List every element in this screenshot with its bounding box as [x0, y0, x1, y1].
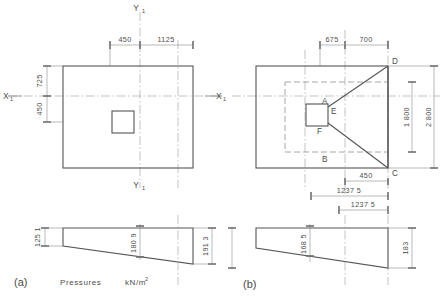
- pressure-trapezoid-b: [256, 228, 388, 268]
- axis-label-x1-left: X: [3, 91, 9, 101]
- pressure-mid-value-a: 180 9: [129, 233, 138, 253]
- pressure-left-value-a: 125 1: [33, 227, 42, 247]
- pressure-mid-value-b: 168 5: [299, 234, 308, 254]
- axis-label-y1-bottom: Y: [133, 180, 139, 190]
- point-label-a: A: [322, 97, 328, 106]
- column-square-a: [112, 111, 134, 133]
- axis-label-y1-bottom-subscript: 1: [142, 185, 145, 191]
- caption-a: (a): [14, 276, 27, 288]
- dim-bottom-short-b: 450: [359, 171, 372, 180]
- point-label-b: B: [322, 155, 328, 164]
- footing-outline-a: [63, 66, 193, 168]
- dim-top-left-b: 675: [325, 35, 338, 44]
- pressure-dim-top-b: 1237 5: [351, 200, 375, 209]
- engineering-drawing-sheet: Y 1 Y 1 X 1 X 1 450 1125 725 450 675 700…: [0, 0, 445, 301]
- pressure-right-value-b: 183: [401, 241, 410, 254]
- axis-label-x1-right: X: [216, 91, 222, 101]
- line-d-to-a-e: [328, 66, 388, 107]
- dim-left-lower-a: 450: [35, 102, 44, 115]
- units-label: kN/m: [125, 278, 146, 287]
- pressure-trapezoid-a: [63, 228, 193, 264]
- dim-left-upper-a: 725: [35, 74, 44, 87]
- units-exponent: 2: [145, 276, 148, 282]
- axis-label-x1-right-subscript: 1: [223, 96, 226, 102]
- point-label-e: E: [331, 107, 337, 116]
- axis-label-x1-left-subscript: 1: [10, 96, 13, 102]
- point-label-f: F: [317, 127, 322, 136]
- axis-label-y1-top: Y: [133, 3, 139, 13]
- plan-view-a-group: [8, 12, 222, 188]
- dim-right-inner-b: 1 800: [402, 107, 411, 127]
- dim-right-outer-b: 2 800: [424, 107, 433, 127]
- axis-label-y1-top-subscript: 1: [142, 8, 145, 14]
- column-square-b: [306, 104, 328, 126]
- pressure-diagram-b-group: [228, 206, 416, 285]
- drawing-canvas: Y 1 Y 1 X 1 X 1 450 1125 725 450 675 700…: [0, 0, 445, 301]
- point-label-d: D: [392, 57, 398, 66]
- caption-b: (b): [243, 278, 256, 290]
- dim-top-left-a: 450: [118, 35, 131, 44]
- dim-top-right-b: 700: [359, 35, 372, 44]
- dim-bottom-long-b: 1237 5: [337, 186, 361, 195]
- pressure-right-value-a: 191 3: [201, 236, 210, 256]
- dashed-region-b: [285, 82, 388, 152]
- line-f-to-b-c: [328, 123, 388, 168]
- dim-top-right-a: 1125: [157, 35, 174, 44]
- point-label-c: C: [392, 169, 398, 178]
- pressures-label: Pressures: [60, 278, 101, 287]
